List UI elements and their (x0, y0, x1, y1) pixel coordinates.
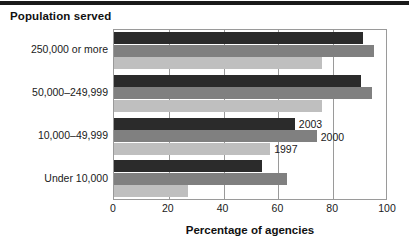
bar-2000-10-000-49-999 (114, 130, 317, 142)
x-tick-40: 40 (217, 202, 229, 214)
plot-area: 200320001997 (113, 29, 387, 200)
x-tick-100: 100 (378, 202, 396, 214)
category-label-3: Under 10,000 (4, 172, 108, 184)
bar-2003-10-000-49-999 (114, 118, 295, 130)
category-label-1: 50,000–249,999 (4, 86, 108, 98)
top-horizontal-rule (0, 1, 409, 5)
bar-1997-250-000-or-more (114, 57, 322, 69)
bar-2000-50-000-249-999 (114, 87, 372, 99)
bar-2003-50-000-249-999 (114, 75, 361, 87)
bar-2000-250-000-or-more (114, 45, 374, 57)
bar-1997-10-000-49-999 (114, 143, 270, 155)
bar-group (114, 116, 386, 159)
bar-1997-under-10-000 (114, 185, 188, 197)
population-served-bar-chart: Population served 200320001997 250,000 o… (0, 0, 409, 252)
bar-group (114, 73, 386, 116)
bar-2000-under-10-000 (114, 173, 287, 185)
series-label-2003: 2003 (299, 118, 322, 130)
x-axis-tick-labels: 020406080100 (113, 202, 387, 218)
x-tick-0: 0 (110, 202, 116, 214)
bar-1997-50-000-249-999 (114, 100, 322, 112)
bar-group (114, 158, 386, 201)
category-label-2: 10,000–49,999 (4, 129, 108, 141)
series-label-2000: 2000 (321, 131, 344, 143)
bar-2003-250-000-or-more (114, 32, 363, 44)
series-label-1997: 1997 (274, 143, 297, 155)
x-axis-title: Percentage of agencies (113, 224, 387, 236)
bar-2003-under-10-000 (114, 160, 262, 172)
category-label-0: 250,000 or more (4, 43, 108, 55)
y-axis-category-labels: 250,000 or more50,000–249,99910,000–49,9… (0, 29, 108, 200)
x-tick-20: 20 (162, 202, 174, 214)
chart-title: Population served (10, 10, 111, 22)
x-tick-60: 60 (272, 202, 284, 214)
x-tick-80: 80 (326, 202, 338, 214)
bar-group (114, 30, 386, 73)
